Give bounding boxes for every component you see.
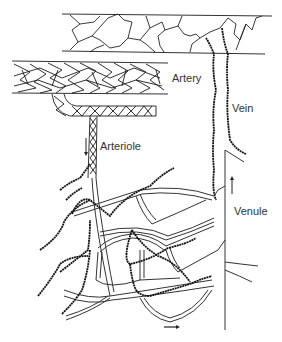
blood-vessel-diagram: Artery Vein Arteriole Venule (0, 0, 282, 342)
arteriole-label: Arteriole (100, 140, 141, 152)
artery (12, 61, 168, 116)
venule (225, 150, 258, 330)
vessel-drawing (0, 0, 282, 342)
tissue-layer (62, 14, 272, 54)
capillary-flow-arrow (164, 325, 180, 329)
arteriole-flow-arrow (84, 138, 88, 156)
venule-label: Venule (234, 205, 268, 217)
artery-label: Artery (172, 72, 201, 84)
vein-label: Vein (232, 102, 253, 114)
venule-flow-arrow (230, 176, 234, 194)
arteriole (88, 116, 97, 178)
